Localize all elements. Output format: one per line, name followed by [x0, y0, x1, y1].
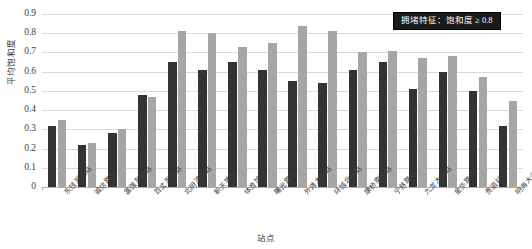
bar-series-light: [118, 129, 127, 187]
x-axis-tick-mark: [373, 187, 374, 190]
bar-group: [313, 14, 343, 187]
x-axis-tick-mark: [463, 187, 464, 190]
bar-series-light: [479, 77, 488, 187]
bar-series-light: [178, 31, 187, 187]
bar-group: [493, 14, 523, 187]
y-axis-tick-label: 0.5: [24, 86, 36, 96]
legend-annotation-box: 拥堵特征：饱和度 ≥ 0.8: [393, 12, 501, 30]
x-axis-tick-mark: [252, 187, 253, 190]
bar-group: [102, 14, 132, 187]
y-axis-tick-labels: 0.90.80.70.60.50.40.30.20.10: [0, 14, 40, 187]
bar-group: [222, 14, 252, 187]
bar-series-light: [298, 26, 307, 187]
bar-series-light: [208, 33, 217, 187]
bar-group: [252, 14, 282, 187]
bar-group: [343, 14, 373, 187]
x-axis-tick-mark: [42, 187, 43, 190]
y-axis-tick-label: 0.2: [24, 144, 36, 154]
bar-series-light: [418, 58, 427, 187]
x-axis-tick-mark: [162, 187, 163, 190]
y-axis-tick-label: 0.7: [24, 48, 36, 58]
x-axis-title: 站点: [0, 231, 532, 243]
y-axis-tick-label: 0.1: [24, 163, 36, 173]
y-axis-tick-label: 0.9: [24, 9, 36, 19]
y-axis-tick-label: 0.3: [24, 125, 36, 135]
bar-series-light: [328, 31, 337, 187]
y-axis-tick-label: 0.8: [24, 28, 36, 38]
bar-group: [72, 14, 102, 187]
bar-group: [192, 14, 222, 187]
bar-series-light: [238, 47, 247, 187]
bar-series-dark: [48, 126, 57, 188]
bars-layer: [42, 14, 523, 187]
bar-series-light: [58, 120, 67, 187]
x-axis-tick-mark: [283, 187, 284, 190]
x-axis-tick-mark: [132, 187, 133, 190]
bar-group: [283, 14, 313, 187]
x-axis-tick-mark: [433, 187, 434, 190]
x-axis-tick-mark: [192, 187, 193, 190]
x-axis-tick-mark: [523, 187, 524, 190]
x-axis-tick-mark: [493, 187, 494, 190]
x-axis-tick-labels: 东钱湖北站诚信路站富强东路站百丈东路站北明泽路站新天地站体育馆站曙光路站外滩大桥…: [42, 189, 523, 235]
y-axis-tick-label: 0: [31, 182, 36, 192]
bar-series-light: [268, 43, 277, 187]
bar-series-light: [88, 143, 97, 187]
y-axis-tick-label: 0.4: [24, 105, 36, 115]
x-axis-tick-mark: [403, 187, 404, 190]
x-axis-tick-mark: [102, 187, 103, 190]
bar-series-light: [509, 101, 518, 188]
x-axis-tick-mark: [343, 187, 344, 190]
bar-group: [162, 14, 192, 187]
bar-group: [403, 14, 433, 187]
bar-group: [132, 14, 162, 187]
x-axis-tick-mark: [72, 187, 73, 190]
bar-group: [463, 14, 493, 187]
bar-chart: 平均饱和度 0.90.80.70.60.50.40.30.20.10 东钱湖北站…: [0, 0, 532, 249]
bar-group: [373, 14, 403, 187]
legend-annotation-text: 拥堵特征：饱和度 ≥ 0.8: [401, 15, 493, 25]
y-axis-tick-label: 0.6: [24, 67, 36, 77]
bar-group: [433, 14, 463, 187]
bar-group: [42, 14, 72, 187]
x-axis-tick-mark: [313, 187, 314, 190]
bar-series-dark: [228, 62, 237, 187]
x-axis-tick-mark: [222, 187, 223, 190]
